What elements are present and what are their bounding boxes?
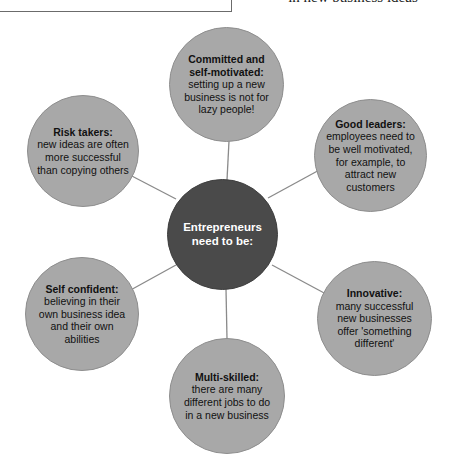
node-innovative-text: Innovative: many successful new business…: [318, 287, 431, 350]
node-risk-takers-text: Risk takers: new ideas are often more su…: [28, 126, 138, 176]
node-committed[interactable]: Committed and self-motivated: setting up…: [169, 27, 284, 142]
node-good-leaders-heading: Good leaders:: [324, 118, 417, 131]
node-self-confident[interactable]: Self confident: believing in their own b…: [25, 257, 139, 371]
node-committed-body: setting up a new business is not for laz…: [179, 78, 274, 116]
node-committed-text: Committed and self-motivated: setting up…: [170, 53, 283, 116]
node-good-leaders-text: Good leaders: employees need to be well …: [315, 118, 426, 194]
node-innovative-heading: Innovative:: [327, 287, 422, 300]
hub-label: Entrepreneurs need to be:: [168, 221, 277, 248]
node-good-leaders[interactable]: Good leaders: employees need to be well …: [314, 99, 427, 212]
node-multi-skilled-heading: Multi-skilled:: [179, 371, 275, 384]
node-risk-takers[interactable]: Risk takers: new ideas are often more su…: [27, 95, 139, 207]
connector-risk-takers: [128, 174, 176, 199]
node-risk-takers-body: new ideas are often more successful than…: [37, 138, 129, 176]
connector-committed: [227, 141, 229, 180]
diagram-canvas: in new business ideas Committed and self…: [0, 0, 451, 459]
node-multi-skilled[interactable]: Multi-skilled: there are many different …: [169, 338, 285, 454]
node-self-confident-body: believing in their own business idea and…: [35, 295, 129, 345]
node-multi-skilled-text: Multi-skilled: there are many different …: [170, 371, 284, 421]
node-self-confident-heading: Self confident:: [35, 283, 129, 296]
hub-circle[interactable]: Entrepreneurs need to be:: [167, 179, 278, 290]
node-committed-heading: Committed and self-motivated:: [179, 53, 274, 78]
connector-multi-skilled: [226, 289, 227, 339]
node-risk-takers-heading: Risk takers:: [37, 126, 129, 139]
node-self-confident-text: Self confident: believing in their own b…: [26, 283, 138, 346]
node-good-leaders-body: employees need to be well motivated, for…: [324, 130, 417, 193]
node-innovative-body: many successful new businesses offer 'so…: [327, 300, 422, 350]
node-innovative[interactable]: Innovative: many successful new business…: [317, 261, 432, 376]
node-multi-skilled-body: there are many different jobs to do in a…: [179, 383, 275, 421]
